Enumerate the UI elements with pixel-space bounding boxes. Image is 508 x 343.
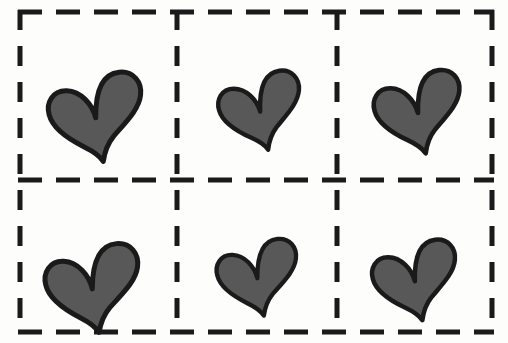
grid-cell-heart-3 [337,12,492,180]
grid-cell-heart-2 [177,12,337,180]
grid-cell-heart-1 [20,12,177,180]
grid-cell-heart-6 [337,180,492,332]
grid-cell-heart-4 [20,180,177,332]
grid-cell-heart-5 [177,180,337,332]
image-canvas [0,0,508,343]
